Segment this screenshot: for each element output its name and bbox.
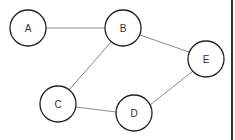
nodes: A B C D E [10, 10, 224, 131]
edge-b-c [69, 42, 111, 90]
node-a-label: A [25, 23, 32, 34]
node-e-label: E [203, 54, 210, 65]
edge-b-e [140, 35, 189, 52]
node-b: B [105, 10, 141, 46]
node-d-label: D [130, 108, 137, 119]
node-d: D [116, 95, 152, 131]
node-a: A [10, 10, 46, 46]
node-c: C [40, 86, 76, 122]
node-c-label: C [54, 99, 61, 110]
right-border-divider [231, 0, 233, 140]
node-b-label: B [120, 23, 127, 34]
node-e: E [188, 41, 224, 77]
edge-c-d [76, 107, 116, 112]
graph-canvas: A B C D E [0, 0, 235, 140]
edge-d-e [150, 71, 193, 105]
